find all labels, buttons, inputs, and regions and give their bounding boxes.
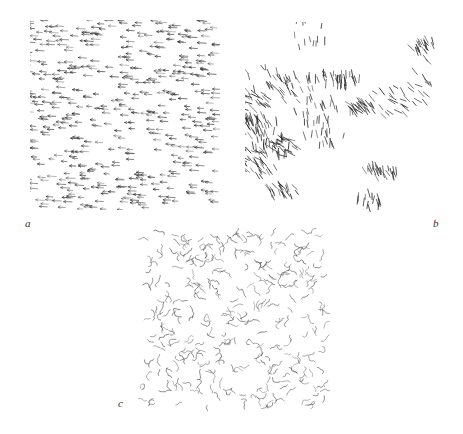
- panel-label-b: b: [433, 218, 439, 229]
- panel-label-c: c: [118, 398, 123, 409]
- panel-label-a: a: [25, 218, 31, 229]
- panel-b-clustered-motion: [245, 22, 435, 212]
- panel-a-aligned-motion: [30, 20, 220, 210]
- figure: a b c: [0, 0, 463, 434]
- panel-c-disordered-motion: [138, 228, 330, 411]
